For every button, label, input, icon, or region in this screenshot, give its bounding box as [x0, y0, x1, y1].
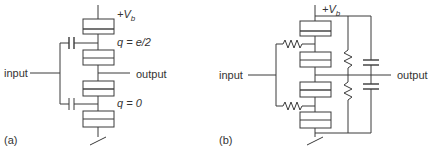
input-label-a: input: [4, 67, 28, 79]
supply-label-a: +Vb: [117, 8, 136, 23]
junction-block-a1: [83, 19, 114, 34]
resistor-icon: [276, 40, 315, 48]
resistor-icon: [344, 82, 352, 100]
panel-b-circuit: [248, 5, 391, 145]
diagram-canvas: +Vb q = e/2 input output q = 0 (a): [0, 0, 431, 152]
output-label-b: output: [397, 69, 428, 81]
resistor-icon: [276, 102, 315, 110]
panel-tag-a: (a): [4, 134, 17, 146]
panel-a-circuit: [30, 5, 130, 145]
junction-block-b1: [300, 21, 331, 36]
ground-icon-a: [90, 137, 106, 145]
charge-label-lower: q = 0: [117, 97, 143, 109]
output-label-a: output: [136, 68, 167, 80]
charge-label-upper: q = e/2: [117, 36, 151, 48]
ground-icon-b: [307, 137, 323, 145]
input-label-b: input: [219, 69, 243, 81]
resistor-icon: [344, 50, 352, 82]
panel-tag-b: (b): [219, 134, 232, 146]
